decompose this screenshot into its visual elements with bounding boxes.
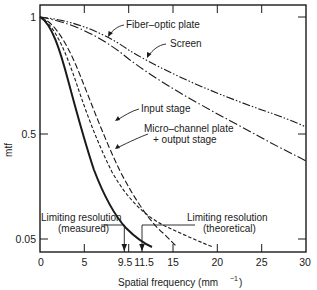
label-micro-channel-plate-1: Micro–channel plate: [144, 123, 234, 134]
y-tick-labels: 1 0.5 0.05: [16, 11, 37, 245]
x-tick-5: 5: [81, 256, 87, 268]
mtf-chart: 0 5 9.5 11.5 15 20 25 30 1 0.5 0.05 mtf …: [0, 0, 317, 290]
x-axis-label: Spatial frequency (mm −1 ): [118, 275, 242, 288]
y-tick-1: 1: [30, 11, 36, 23]
label-micro-channel-plate-2: + output stage: [153, 134, 217, 145]
y-tick-0.5: 0.5: [21, 128, 36, 140]
limiting-resolution-theoretical: Limiting resolution (theoretical): [139, 212, 267, 251]
x-tick-0: 0: [38, 256, 44, 268]
x-tick-15: 15: [167, 256, 179, 268]
x-tick-labels: 0 5 9.5 11.5 15 20 25 30: [38, 256, 311, 268]
lim-measured-label-1: Limiting resolution: [41, 212, 122, 223]
lim-theoretical-label-1: Limiting resolution: [187, 212, 268, 223]
x-tick-30: 30: [299, 256, 311, 268]
x-axis-label-sup: −1: [230, 275, 238, 282]
lim-theoretical-label-2: (theoretical): [203, 223, 256, 234]
mcp-leader: [117, 134, 148, 148]
y-axis-label: mtf: [3, 143, 14, 157]
x-axis-label-main: Spatial frequency (mm: [118, 277, 218, 288]
y-tick-0.05: 0.05: [16, 233, 37, 245]
x-axis-label-close: ): [239, 277, 242, 288]
label-fiber-optic-plate: Fiber–optic plate: [126, 19, 200, 30]
label-input-stage: Input stage: [141, 103, 191, 114]
x-tick-20: 20: [211, 256, 223, 268]
x-tick-9.5: 9.5: [118, 256, 133, 268]
label-screen: Screen: [170, 38, 202, 49]
annotations: Fiber–optic plate Screen Input stage Mic…: [126, 19, 234, 145]
input-leader: [117, 109, 139, 120]
x-tick-11.5: 11.5: [134, 256, 154, 268]
x-tick-25: 25: [256, 256, 268, 268]
